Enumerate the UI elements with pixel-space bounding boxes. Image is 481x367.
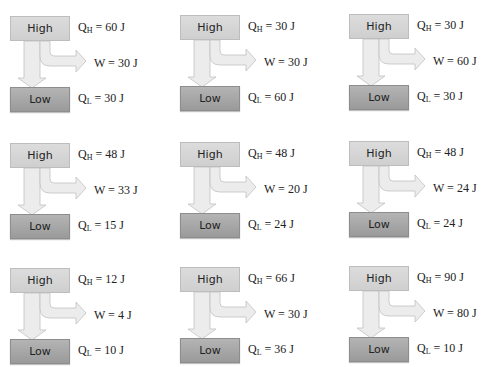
high-temperature-reservoir: High <box>180 142 240 167</box>
heat-out-label: QL = 60 J <box>248 90 294 105</box>
heat-out-label: QL = 10 J <box>78 343 124 358</box>
low-temperature-reservoir: Low <box>349 212 409 237</box>
heat-engine-panel: High Low QH = 30 J W = 30 J QL = 60 J <box>180 15 330 115</box>
work-label: W = 30 J <box>264 55 308 70</box>
heat-out-label: QL = 30 J <box>78 91 124 106</box>
heat-in-label: QH = 48 J <box>248 146 295 161</box>
low-label: Low <box>368 343 390 356</box>
heat-engine-panel: High Low QH = 48 J W = 24 J QL = 24 J <box>349 141 481 241</box>
high-temperature-reservoir: High <box>180 15 240 40</box>
low-label: Low <box>29 345 51 358</box>
work-label: W = 30 J <box>94 56 138 71</box>
heat-engine-panel: High Low QH = 12 J W = 4 J QL = 10 J <box>10 268 160 367</box>
low-temperature-reservoir: Low <box>349 337 409 362</box>
high-label: High <box>197 273 222 286</box>
heat-engine-panel: High Low QH = 60 J W = 30 J QL = 30 J <box>10 16 160 116</box>
high-temperature-reservoir: High <box>10 268 70 293</box>
heat-out-label: QL = 15 J <box>78 218 124 233</box>
heat-in-label: QH = 30 J <box>248 19 295 34</box>
low-label: Low <box>199 344 221 357</box>
low-label: Low <box>199 92 221 105</box>
heat-engine-panel: High Low QH = 48 J W = 20 J QL = 24 J <box>180 142 330 242</box>
heat-out-label: QL = 30 J <box>417 89 463 104</box>
work-label: W = 20 J <box>264 182 308 197</box>
low-temperature-reservoir: Low <box>10 339 70 364</box>
heat-in-label: QH = 60 J <box>78 20 125 35</box>
low-temperature-reservoir: Low <box>349 85 409 110</box>
high-label: High <box>366 20 391 33</box>
heat-in-label: QH = 48 J <box>78 147 125 162</box>
low-label: Low <box>29 93 51 106</box>
high-temperature-reservoir: High <box>349 266 409 291</box>
high-temperature-reservoir: High <box>180 267 240 292</box>
work-label: W = 4 J <box>94 308 132 323</box>
high-label: High <box>366 147 391 160</box>
heat-engine-panel: High Low QH = 90 J W = 80 J QL = 10 J <box>349 266 481 366</box>
high-label: High <box>366 272 391 285</box>
heat-out-label: QL = 10 J <box>417 341 463 356</box>
high-label: High <box>27 149 52 162</box>
low-label: Low <box>29 220 51 233</box>
high-temperature-reservoir: High <box>349 141 409 166</box>
high-label: High <box>197 148 222 161</box>
heat-out-label: QL = 24 J <box>248 217 294 232</box>
high-temperature-reservoir: High <box>10 16 70 41</box>
low-temperature-reservoir: Low <box>10 87 70 112</box>
high-label: High <box>27 274 52 287</box>
low-temperature-reservoir: Low <box>10 214 70 239</box>
heat-engine-panel: High Low QH = 66 J W = 30 J QL = 36 J <box>180 267 330 367</box>
work-label: W = 30 J <box>264 307 308 322</box>
low-temperature-reservoir: Low <box>180 213 240 238</box>
heat-in-label: QH = 48 J <box>417 145 464 160</box>
heat-in-label: QH = 66 J <box>248 271 295 286</box>
work-label: W = 60 J <box>433 54 477 69</box>
low-temperature-reservoir: Low <box>180 338 240 363</box>
heat-in-label: QH = 30 J <box>417 18 464 33</box>
low-label: Low <box>368 218 390 231</box>
high-temperature-reservoir: High <box>10 143 70 168</box>
heat-engine-panel: High Low QH = 30 J W = 60 J QL = 30 J <box>349 14 481 114</box>
heat-out-label: QL = 24 J <box>417 216 463 231</box>
work-label: W = 80 J <box>433 306 477 321</box>
work-label: W = 24 J <box>433 181 477 196</box>
heat-out-label: QL = 36 J <box>248 342 294 357</box>
low-temperature-reservoir: Low <box>180 86 240 111</box>
heat-engine-panel: High Low QH = 48 J W = 33 J QL = 15 J <box>10 143 160 243</box>
heat-in-label: QH = 90 J <box>417 270 464 285</box>
heat-in-label: QH = 12 J <box>78 272 125 287</box>
high-temperature-reservoir: High <box>349 14 409 39</box>
low-label: Low <box>199 219 221 232</box>
work-label: W = 33 J <box>94 183 138 198</box>
low-label: Low <box>368 91 390 104</box>
high-label: High <box>27 22 52 35</box>
high-label: High <box>197 21 222 34</box>
